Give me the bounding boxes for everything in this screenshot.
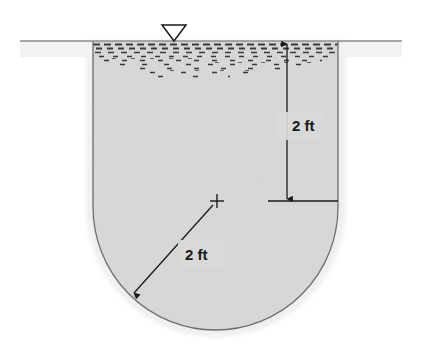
diagram-canvas: 2 ft 2 ft [0,0,424,350]
radius-dimension-label: 2 ft [185,246,208,263]
depth-dimension-label: 2 ft [292,117,315,134]
water-table-triangle [162,25,186,41]
excavation-fill [93,41,338,330]
excavation-cross-section-diagram: 2 ft 2 ft [0,0,424,350]
